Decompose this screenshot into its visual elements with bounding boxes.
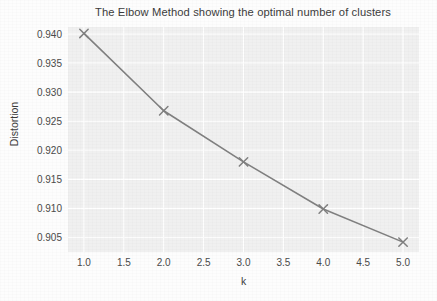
x-tick-label: 1.0	[64, 257, 104, 268]
x-tick-label: 3.0	[224, 257, 264, 268]
y-tick-label: 0.935	[18, 58, 62, 69]
y-tick-label: 0.910	[18, 203, 62, 214]
y-axis-label: Distortion	[8, 84, 20, 164]
x-tick-label: 4.5	[343, 257, 383, 268]
plot-area	[68, 27, 419, 252]
y-tick-label: 0.905	[18, 232, 62, 243]
x-tick-label: 3.5	[263, 257, 303, 268]
chart-figure: The Elbow Method showing the optimal num…	[0, 0, 437, 301]
chart-title: The Elbow Method showing the optimal num…	[68, 6, 418, 18]
y-tick-label: 0.930	[18, 87, 62, 98]
vertical-gridlines	[84, 27, 403, 252]
x-tick-label: 5.0	[383, 257, 423, 268]
y-axis-tick-labels: 0.9050.9100.9150.9200.9250.9300.9350.940	[16, 0, 62, 301]
y-tick-label: 0.940	[18, 28, 62, 39]
y-tick-label: 0.920	[18, 145, 62, 156]
x-tick-label: 2.0	[144, 257, 184, 268]
x-axis-label: k	[68, 275, 419, 287]
x-tick-label: 4.0	[303, 257, 343, 268]
x-tick-label: 2.5	[184, 257, 224, 268]
y-tick-label: 0.925	[18, 116, 62, 127]
y-tick-label: 0.915	[18, 174, 62, 185]
plot-svg	[68, 27, 419, 252]
x-tick-label: 1.5	[104, 257, 144, 268]
